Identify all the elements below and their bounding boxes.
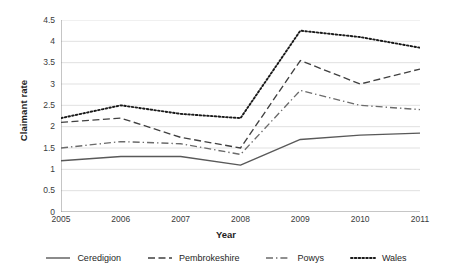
x-tick-label: 2005 — [31, 215, 91, 224]
legend-item-wales[interactable]: Wales — [350, 253, 407, 263]
y-tick-label: 3.5 — [25, 58, 55, 67]
x-axis-title: Year — [0, 229, 452, 240]
series-line-powys — [61, 90, 420, 154]
chart-canvas — [61, 20, 420, 212]
legend-key-dotted-icon — [350, 253, 376, 263]
y-tick-label: 3 — [25, 80, 55, 89]
y-tick-label: 2.5 — [25, 101, 55, 110]
claimant-rate-line-chart: Claimant rate 00.511.522.533.544.5 20052… — [0, 0, 452, 275]
y-tick-label: 4 — [25, 37, 55, 46]
legend-label: Wales — [382, 254, 407, 263]
legend-item-pembrokeshire[interactable]: Pembrokeshire — [147, 253, 240, 263]
legend-label: Pembrokeshire — [179, 254, 240, 263]
chart-legend: CeredigionPembrokeshirePowysWales — [0, 250, 452, 266]
legend-label: Powys — [297, 254, 324, 263]
y-tick-label: 4.5 — [25, 16, 55, 25]
legend-item-ceredigion[interactable]: Ceredigion — [45, 253, 121, 263]
plot-area — [61, 20, 420, 212]
legend-item-powys[interactable]: Powys — [265, 253, 324, 263]
y-tick-label: 0.5 — [25, 186, 55, 195]
x-tick-label: 2006 — [91, 215, 151, 224]
series-line-ceredigion — [61, 133, 420, 165]
x-tick-label: 2007 — [151, 215, 211, 224]
legend-key-solid-icon — [45, 253, 71, 263]
y-tick-label: 1 — [25, 165, 55, 174]
x-tick-label: 2009 — [270, 215, 330, 224]
legend-key-dashdot-icon — [265, 253, 291, 263]
x-tick-label: 2008 — [211, 215, 271, 224]
x-tick-label: 2010 — [330, 215, 390, 224]
legend-key-dashed-icon — [147, 253, 173, 263]
y-tick-label: 2 — [25, 122, 55, 131]
legend-label: Ceredigion — [77, 254, 121, 263]
y-tick-label: 1.5 — [25, 144, 55, 153]
x-tick-label: 2011 — [390, 215, 450, 224]
